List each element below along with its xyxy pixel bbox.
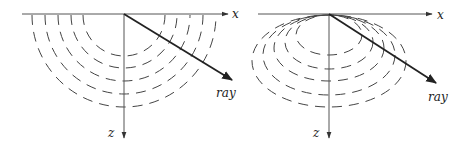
left-z-label: z: [107, 126, 115, 140]
right-ray-label: ray: [428, 90, 448, 104]
right-panel: x ray z: [252, 8, 448, 140]
left-ray-label: ray: [216, 86, 236, 100]
right-z-label: z: [312, 126, 320, 140]
wavefront-ray-diagram: x ray z x ray z: [0, 0, 468, 148]
left-x-label: x: [232, 7, 239, 21]
right-x-label: x: [437, 8, 444, 22]
right-ray-arrow: [329, 14, 436, 83]
left-panel: x ray z: [22, 7, 239, 140]
